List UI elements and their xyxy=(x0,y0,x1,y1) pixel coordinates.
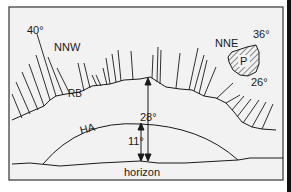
nnw-label: NNW xyxy=(54,41,81,53)
angle-36-label: 36° xyxy=(253,28,270,40)
angle-40-label: 40° xyxy=(27,24,44,36)
angle-26-label: 26° xyxy=(251,76,268,88)
patch-label: P xyxy=(240,55,247,67)
diagram-canvas: 40° NNW NNE 36° 26° P RB HA 28° 11° hori… xyxy=(0,0,291,192)
angle-11-label: 11° xyxy=(128,135,144,147)
horizon-label: horizon xyxy=(124,166,160,178)
ridge-band-label: RB xyxy=(68,88,82,99)
edge-bar xyxy=(287,0,291,192)
sky-diagram: 40° NNW NNE 36° 26° P RB HA 28° 11° hori… xyxy=(0,0,291,192)
nne-label: NNE xyxy=(215,37,238,49)
angle-28-label: 28° xyxy=(140,111,157,123)
